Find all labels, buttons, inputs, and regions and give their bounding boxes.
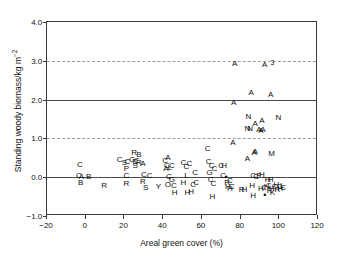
x-tick-mark (317, 215, 318, 219)
data-point-marker: N (275, 114, 281, 122)
data-point-marker: H (268, 176, 274, 184)
data-point-marker: A (232, 60, 237, 68)
x-tick-mark (278, 215, 279, 219)
x-tick-label: 100 (272, 221, 285, 230)
data-point-marker: R (101, 182, 107, 190)
y-tick-mark (43, 100, 47, 101)
y-tick-mark (43, 138, 47, 139)
gridline (47, 61, 316, 62)
data-point-marker: C (169, 162, 175, 170)
data-point-marker: S (143, 184, 148, 192)
data-point-marker: A (260, 126, 265, 134)
x-tick-label: 20 (119, 221, 128, 230)
y-tick-mark (43, 177, 47, 178)
data-point-marker: M (268, 150, 275, 158)
gridline (47, 138, 316, 139)
data-point-marker: C (211, 180, 217, 188)
x-tick-label: 0 (83, 221, 87, 230)
x-tick-label: 40 (158, 221, 167, 230)
data-point-marker: C (192, 169, 198, 177)
data-point-marker: A (231, 99, 236, 107)
data-point-marker: H (242, 186, 248, 194)
x-tick-mark (46, 215, 47, 219)
data-point-marker: Y (156, 183, 161, 191)
x-tick-label: −20 (39, 221, 52, 230)
data-point-marker: B (78, 179, 83, 187)
data-point-marker: H (249, 182, 255, 190)
data-point-marker: C (212, 165, 218, 173)
x-tick-label: 60 (196, 221, 205, 230)
y-tick-label: 2.0 (31, 95, 42, 104)
scatter-plot-figure: Standing woody biomass/kg m−2 −1.00.01.0… (0, 0, 343, 264)
data-point-marker: A (262, 61, 267, 69)
x-tick-label: 80 (235, 221, 244, 230)
data-point-marker: A (259, 117, 264, 125)
data-point-marker: S (132, 162, 137, 170)
data-point-marker: C (205, 145, 211, 153)
x-axis-ticks: −20020406080100120 (46, 215, 317, 235)
y-tick-label: 4.0 (31, 18, 42, 27)
data-point-marker: C (147, 172, 153, 180)
x-tick-mark (85, 215, 86, 219)
x-tick-mark (162, 215, 163, 219)
data-point-marker: 3 (271, 58, 275, 65)
x-tick-label: 120 (310, 221, 323, 230)
y-tick-label: 3.0 (31, 56, 42, 65)
data-point-marker: N (245, 113, 251, 121)
data-point-marker: A (249, 89, 254, 97)
x-tick-mark (123, 215, 124, 219)
data-point-marker: A (245, 155, 250, 163)
y-tick-label: 1.0 (31, 134, 42, 143)
y-tick-label: −1.0 (27, 212, 42, 221)
data-point-marker: H (221, 162, 227, 170)
y-tick-mark (43, 22, 47, 23)
data-point-marker: H (172, 189, 178, 197)
data-point-marker: A (252, 148, 257, 156)
data-point-marker: H (250, 192, 256, 200)
x-axis-label-text: Areal green cover (%) (140, 238, 223, 248)
data-point-marker: A (268, 91, 273, 99)
data-point-marker: A (230, 139, 235, 147)
data-point-marker: B (86, 173, 91, 181)
x-tick-mark (201, 215, 202, 219)
y-tick-mark (43, 61, 47, 62)
y-tick-label: 0.0 (31, 173, 42, 182)
data-point-marker: C (77, 161, 83, 169)
plot-area: −1.00.01.02.03.04.0 CCABBRCSCPCRRGCBCRSA… (46, 21, 317, 215)
data-point-marker: C (280, 184, 286, 192)
x-axis-label: Areal green cover (%) (46, 238, 317, 248)
y-axis-label-text: Standing woody biomass/kg m−2 (13, 50, 23, 173)
gridline (47, 100, 316, 101)
data-point-marker: H (181, 179, 187, 187)
data-point-marker: C (193, 179, 199, 187)
data-point-marker: C (229, 183, 235, 191)
data-point-marker: A (140, 160, 145, 168)
data-point-marker: R (123, 180, 129, 188)
x-tick-mark (240, 215, 241, 219)
data-point-marker: H (210, 193, 216, 201)
y-axis-label: Standing woody biomass/kg m−2 (11, 31, 23, 191)
data-point-marker: H (188, 188, 194, 196)
